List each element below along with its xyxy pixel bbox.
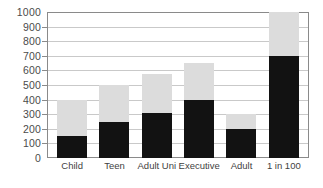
bar-segment-lower — [57, 136, 87, 158]
bar-segment-upper — [226, 114, 256, 129]
bar-segment-lower — [184, 100, 214, 158]
bars-layer — [47, 12, 309, 158]
y-axis-tick-label: 500 — [23, 80, 41, 90]
x-axis-category-label: Adult Uni — [136, 160, 178, 171]
x-axis-category-label: Executive — [178, 160, 220, 171]
y-axis-labels: 10009008007006005004003002001000 — [0, 12, 44, 158]
y-axis-tick-label: 400 — [23, 95, 41, 105]
y-axis-tick-label: 300 — [23, 109, 41, 119]
bar-group — [142, 12, 172, 158]
bar-group — [57, 12, 87, 158]
y-axis-tick-mark — [42, 100, 47, 101]
bar-group — [269, 12, 299, 158]
bar-segment-upper — [269, 12, 299, 56]
x-axis-category-label: 1 in 100 — [263, 160, 305, 171]
y-axis-tick-label: 1000 — [17, 7, 41, 17]
y-axis-tick-label: 0 — [35, 153, 41, 163]
bar-segment-upper — [57, 100, 87, 137]
y-axis-tick-mark — [42, 70, 47, 71]
y-axis-tick-label: 800 — [23, 36, 41, 46]
y-axis-tick-mark — [42, 143, 47, 144]
y-axis-tick-mark — [42, 114, 47, 115]
y-axis-tick-label: 100 — [23, 138, 41, 148]
bar-group — [99, 12, 129, 158]
bar-group — [184, 12, 214, 158]
y-axis-tick-mark — [42, 85, 47, 86]
x-axis-category-label: Teen — [93, 160, 135, 171]
y-axis-tick-mark — [42, 56, 47, 57]
y-axis-tick-label: 900 — [23, 22, 41, 32]
bar-segment-upper — [99, 85, 129, 122]
y-axis-tick-mark — [42, 41, 47, 42]
y-axis-tick-mark — [42, 129, 47, 130]
y-axis-tick-label: 600 — [23, 65, 41, 75]
bar-segment-upper — [142, 74, 172, 113]
bar-segment-upper — [184, 63, 214, 100]
x-axis-category-label: Child — [51, 160, 93, 171]
y-axis-tick-label: 700 — [23, 51, 41, 61]
bar-segment-lower — [269, 56, 299, 158]
x-axis-labels: ChildTeenAdult UniExecutiveAdult1 in 100 — [47, 160, 309, 171]
bar-segment-lower — [226, 129, 256, 158]
bar-segment-lower — [142, 113, 172, 158]
y-axis-tick-mark — [42, 27, 47, 28]
bar-segment-lower — [99, 122, 129, 159]
bar-chart: 10009008007006005004003002001000 ChildTe… — [0, 0, 323, 188]
x-axis-category-label: Adult — [220, 160, 262, 171]
y-axis-tick-label: 200 — [23, 124, 41, 134]
bar-group — [226, 12, 256, 158]
